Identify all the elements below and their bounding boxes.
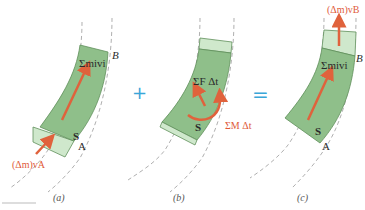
label-outflow-momentum: (Δm)vB xyxy=(327,5,360,15)
caption-b: (b) xyxy=(173,193,185,203)
label-system-c: S xyxy=(315,126,321,137)
caption-c: (c) xyxy=(297,193,308,203)
label-inflow-momentum: (Δm)vA xyxy=(12,160,45,170)
momentum-diagram xyxy=(0,0,365,210)
caption-a: (a) xyxy=(53,193,65,203)
label-boundary-b-c: B xyxy=(356,53,363,64)
label-sum-momentum-c: Σmivi xyxy=(321,60,348,71)
label-force-impulse: ΣF Δt xyxy=(193,76,218,87)
label-boundary-a-c: A xyxy=(322,141,330,152)
panel-b xyxy=(128,18,234,192)
label-moment-impulse: ΣM Δt xyxy=(225,121,251,131)
figure-caption-faint xyxy=(2,202,36,204)
label-boundary-b-a: B xyxy=(112,50,119,61)
label-boundary-a-a: A xyxy=(78,141,86,152)
equals-operator: = xyxy=(252,84,269,104)
plus-operator: + xyxy=(132,84,147,102)
label-system-b: S xyxy=(195,122,201,133)
label-sum-momentum-a: Σmivi xyxy=(79,58,106,69)
